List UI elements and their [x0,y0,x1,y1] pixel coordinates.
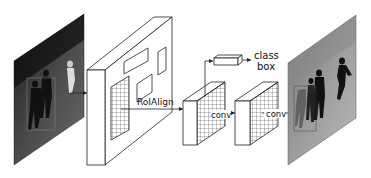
fc-head-bar [214,55,242,65]
conv1-label: conv [211,110,231,120]
conv2-label: conv [266,109,286,119]
input-image [14,14,87,165]
roialign-label: RoIAlign [137,97,174,107]
feature-map [87,17,172,165]
class-label: class [254,50,279,61]
roi-grid [111,76,129,140]
output-image [288,15,356,165]
box-label: box [257,61,275,72]
mask-rcnn-diagram: RoIAlign class box conv conv [0,0,371,178]
